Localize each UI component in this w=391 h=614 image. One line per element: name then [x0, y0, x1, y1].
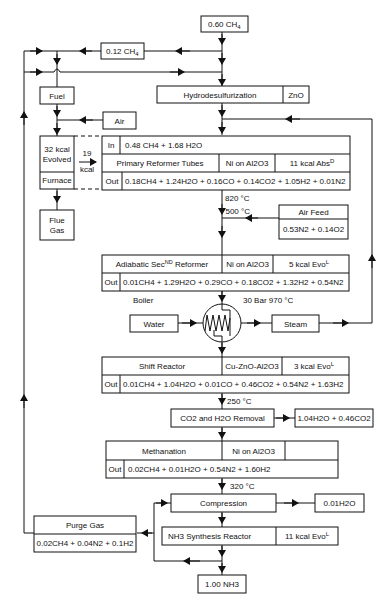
svg-text:Boiler: Boiler — [133, 296, 154, 305]
svg-text:Flue: Flue — [49, 216, 65, 225]
svg-text:Ni on Al2O3: Ni on Al2O3 — [232, 447, 275, 456]
bypass-box: 0.12 CH4 — [101, 43, 144, 59]
svg-text:ZnO: ZnO — [288, 91, 304, 100]
svg-text:Fuel: Fuel — [49, 92, 65, 101]
removed-products-box: 1.04H2O + 0.46CO2 — [295, 409, 373, 427]
svg-text:250 °C: 250 °C — [227, 397, 252, 406]
svg-text:Air: Air — [115, 117, 125, 126]
secondary-reformer-block: Adiabatic SecND Reformer Ni on Al2O3 5 k… — [102, 255, 349, 291]
boiler-heat-exchanger — [203, 304, 241, 342]
svg-text:Compression: Compression — [200, 499, 247, 508]
svg-text:Out: Out — [105, 278, 119, 287]
primary-reformer-block: In 0.48 CH4 + 1.68 H2O Primary Reformer … — [102, 136, 350, 190]
svg-text:32 kcal: 32 kcal — [44, 145, 70, 154]
svg-text:Ni on Al2O3: Ni on Al2O3 — [226, 260, 269, 269]
shift-reactor-block: Shift Reactor Cu-ZnO-Al2O3 3 kcal EvoL O… — [102, 357, 349, 393]
svg-text:Out: Out — [105, 380, 119, 389]
svg-text:Out: Out — [106, 177, 120, 186]
svg-text:Furnace: Furnace — [42, 176, 72, 185]
svg-text:820 °C: 820 °C — [225, 194, 250, 203]
svg-text:11 kcal AbsD: 11 kcal AbsD — [290, 158, 335, 168]
svg-text:Primary Reformer Tubes: Primary Reformer Tubes — [116, 159, 203, 168]
co2-h2o-removal-box: CO2 and H2O Removal — [171, 409, 274, 427]
flue-gas-box: Flue Gas — [40, 210, 74, 240]
svg-text:Water: Water — [143, 320, 164, 329]
air-box: Air — [103, 112, 136, 129]
svg-text:500 °C: 500 °C — [225, 207, 250, 216]
svg-text:19: 19 — [83, 149, 92, 158]
svg-text:Cu-ZnO-Al2O3: Cu-ZnO-Al2O3 — [225, 362, 279, 371]
svg-text:320 °C: 320 °C — [230, 482, 255, 491]
hydrodesulfurization-box: Hydrodesulfurization ZnO — [157, 86, 309, 103]
svg-text:0.01CH4 + 1.04H2O + 0.01CO + 0: 0.01CH4 + 1.04H2O + 0.01CO + 0.46CO2 + 0… — [123, 380, 344, 389]
svg-text:Gas: Gas — [50, 226, 65, 235]
svg-text:30 Bar 970 °C: 30 Bar 970 °C — [243, 296, 294, 305]
methanation-block: Methanation Ni on Al2O3 Out 0.02CH4 + 0.… — [106, 441, 338, 478]
svg-text:Adiabatic SecND Reformer: Adiabatic SecND Reformer — [116, 259, 209, 269]
furnace-block: 32 kcal Evolved Furnace 19 kcal — [40, 136, 102, 189]
svg-text:CO2 and H2O Removal: CO2 and H2O Removal — [180, 414, 265, 423]
svg-text:Shift Reactor: Shift Reactor — [139, 362, 186, 371]
svg-text:Purge Gas: Purge Gas — [66, 521, 104, 530]
svg-text:0.53N2 + 0.14O2: 0.53N2 + 0.14O2 — [283, 225, 345, 234]
steam-box: Steam — [272, 315, 319, 332]
feed-label: 0.60 CH4 — [208, 20, 241, 30]
feed-box: 0.60 CH4 — [201, 16, 248, 32]
svg-text:Methanation: Methanation — [142, 447, 186, 456]
svg-text:Hydrodesulfurization: Hydrodesulfurization — [184, 91, 257, 100]
svg-text:5 kcal EvoL: 5 kcal EvoL — [289, 259, 330, 269]
svg-text:Steam: Steam — [284, 320, 307, 329]
bypass-label: 0.12 CH4 — [106, 47, 139, 57]
primary-in-value: 0.48 CH4 + 1.68 H2O — [125, 141, 202, 150]
ammonia-process-flow-diagram: 0.60 CH4 0.12 CH4 Fuel Air Hydrodesulfur… — [0, 0, 391, 614]
svg-text:0.01H2O: 0.01H2O — [323, 499, 355, 508]
water-box: Water — [130, 315, 178, 332]
svg-text:1.00 NH3: 1.00 NH3 — [205, 580, 239, 589]
svg-text:0.02CH4 + 0.01H2O + 0.54N2 + 1: 0.02CH4 + 0.01H2O + 0.54N2 + 1.60H2 — [128, 465, 271, 474]
svg-text:Out: Out — [109, 465, 123, 474]
nh3-synthesis-block: NH3 Synthesis Reactor 11 kcal EvoL — [162, 527, 338, 545]
air-feed-box: Air Feed 0.53N2 + 0.14O2 — [279, 205, 348, 239]
nh3-product-box: 1.00 NH3 — [198, 575, 246, 593]
svg-text:1.04H2O + 0.46CO2: 1.04H2O + 0.46CO2 — [297, 414, 371, 423]
svg-text:0.01CH4 + 1.29H2O + 0.29CO + 0: 0.01CH4 + 1.29H2O + 0.29CO + 0.18CO2 + 1… — [123, 278, 344, 287]
svg-text:11 kcal EvoL: 11 kcal EvoL — [285, 531, 330, 541]
svg-text:Ni on Al2O3: Ni on Al2O3 — [226, 159, 269, 168]
svg-text:In: In — [108, 141, 115, 150]
svg-text:Evolved: Evolved — [43, 155, 71, 164]
svg-text:Air Feed: Air Feed — [298, 208, 328, 217]
svg-text:3 kcal EvoL: 3 kcal EvoL — [294, 361, 335, 371]
svg-text:kcal: kcal — [80, 165, 94, 174]
fuel-box: Fuel — [40, 87, 74, 104]
primary-out-value: 0.18CH4 + 1.24H2O + 0.16CO + 0.14CO2 + 1… — [125, 177, 346, 186]
svg-text:0.02CH4 + 0.04N2 + 0.1H2: 0.02CH4 + 0.04N2 + 0.1H2 — [37, 539, 135, 548]
purge-gas-block: Purge Gas 0.02CH4 + 0.04N2 + 0.1H2 — [34, 516, 136, 552]
compression-box: Compression — [171, 494, 276, 512]
compression-water-box: 0.01H2O — [315, 494, 364, 512]
svg-text:NH3 Synthesis Reactor: NH3 Synthesis Reactor — [168, 532, 251, 541]
